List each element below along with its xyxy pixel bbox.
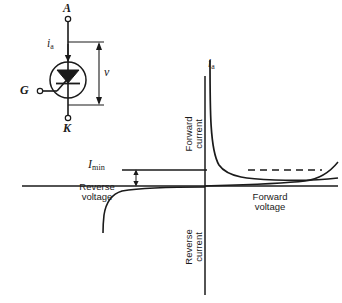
thyristor-symbol-group [37,16,104,120]
reverse-current-line-2: current [193,232,204,262]
anode-current-arrow-head [65,55,71,62]
voltage-dim-arrowhead-down [96,97,102,105]
holding-current-subscript: min [92,163,105,172]
anode-label: A [63,2,71,15]
holding-current-label: Imin [88,158,105,173]
symbol-anode-current-label: ia [47,37,54,51]
symbol-current-subscript: a [50,42,54,51]
y-axis-current-label: ia [208,57,215,71]
symbol-voltage-label: v [104,66,109,79]
forward-voltage-line-2: voltage [255,201,286,212]
forward-current-axis-label: Forward current [184,95,204,173]
on-state-branch [210,60,338,180]
reverse-voltage-line-2: voltage [82,191,113,202]
reverse-voltage-axis-label: Reverse voltage [63,182,131,202]
gate-label: G [20,84,29,97]
figure-root: A K G ia v ia Forward current Reverse cu… [0,0,342,303]
anode-terminal-dot [65,16,70,21]
cathode-terminal-dot [65,115,70,120]
y-axis-current-subscript: a [211,62,215,71]
forward-voltage-axis-label: Forward voltage [236,192,304,212]
forward-current-line-2: current [193,119,204,149]
gate-terminal-dot [37,88,42,93]
forward-blocking-branch [205,162,338,186]
voltage-dim-arrowhead-up [96,42,102,50]
reverse-current-axis-label: Reverse current [184,208,204,286]
cathode-label: K [63,122,71,135]
